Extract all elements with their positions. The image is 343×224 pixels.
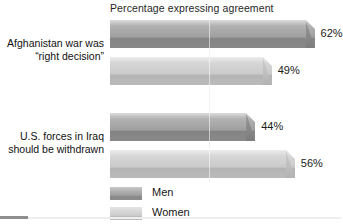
value-label-56: 56%	[301, 157, 323, 169]
bar-sheen	[110, 150, 295, 178]
plot-area: 62% 49% 44% 56%	[110, 18, 341, 182]
category-label-line1: U.S. forces in Iraq	[20, 130, 104, 142]
footer-divider-accent	[0, 216, 28, 219]
bar-men-44[interactable]	[110, 113, 255, 141]
bar-bevel	[286, 150, 295, 178]
bar-group-afghanistan-men	[110, 20, 315, 48]
bar-bevel	[246, 113, 255, 141]
category-label-afghanistan: Afghanistan war was “right decision”	[0, 37, 104, 63]
bar-inner-gridline	[209, 20, 210, 48]
bar-men-62[interactable]	[110, 20, 315, 48]
bar-women-56[interactable]	[110, 150, 295, 178]
value-label-49: 49%	[278, 64, 300, 76]
category-label-line1: Afghanistan war was	[7, 37, 104, 49]
bar-group-iraq-women	[110, 150, 295, 178]
footer-divider	[0, 217, 341, 219]
legend-label-men: Men	[152, 186, 173, 198]
bar-inner-gridline	[209, 150, 210, 178]
legend-swatch-men	[110, 187, 142, 200]
bar-group-iraq-men	[110, 113, 255, 141]
category-label-iraq: U.S. forces in Iraq should be withdrawn	[0, 130, 104, 156]
value-label-44: 44%	[261, 120, 283, 132]
chart-title: Percentage expressing agreement	[110, 2, 274, 14]
bar-sheen	[110, 57, 272, 85]
value-label-62: 62%	[321, 27, 343, 39]
category-label-line2: “right decision”	[0, 50, 104, 63]
bar-group-afghanistan-women	[110, 57, 272, 85]
bar-inner-gridline	[209, 57, 210, 85]
category-label-line2: should be withdrawn	[0, 143, 104, 156]
bar-bevel	[263, 57, 272, 85]
bar-women-49[interactable]	[110, 57, 272, 85]
bar-sheen	[110, 20, 315, 48]
bar-inner-gridline	[209, 113, 210, 141]
bar-bevel	[306, 20, 315, 48]
bar-sheen	[110, 113, 255, 141]
